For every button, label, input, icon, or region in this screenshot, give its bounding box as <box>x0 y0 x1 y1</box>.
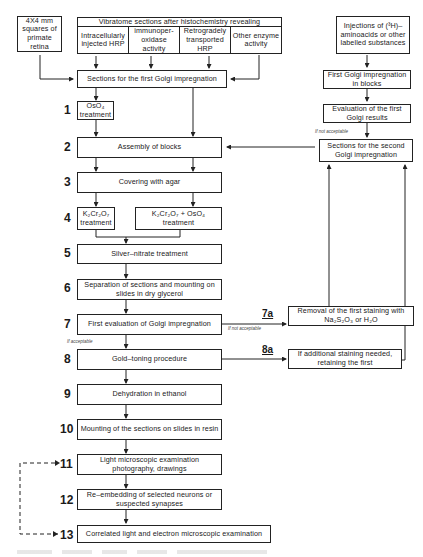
acceptable-note: If acceptable <box>67 339 93 344</box>
second-golgi-sections-box: Sections for the second Golgi impregnati… <box>319 139 413 162</box>
evaluation-first-golgi-box: Evaluation of the first Golgi results <box>323 104 411 123</box>
step-7a-text: Removal of the first staining with Na₂S₂… <box>289 307 413 324</box>
first-golgi-blocks-text: First Golgi impregnation in blocks <box>324 71 410 88</box>
step-4a-text: K₂Cr₂O₇ treatment <box>78 210 114 227</box>
step-number-11: 11 <box>60 458 73 470</box>
step-5-text: Silver–nitrate treatment <box>111 250 188 259</box>
step-number-7: 7 <box>64 318 71 330</box>
vibratome-cell-other-enzyme: Other enzyme activity <box>231 27 281 53</box>
retina-squares-text: 4X4 mm squares of primate retina <box>18 17 61 51</box>
step-2-assembly-box: Assembly of blocks <box>77 137 222 158</box>
step-8a-additional-staining-box: If additional staining needed, retaining… <box>288 349 402 369</box>
retina-squares-box: 4X4 mm squares of primate retina <box>17 16 62 52</box>
step-number-5: 5 <box>64 247 71 259</box>
step-13-text: Correlated light and electron microscopi… <box>86 530 262 539</box>
step-11-light-microscopy-box: Light microscopic examination photograph… <box>77 454 222 475</box>
step-1-text: OsO₄ treatment <box>78 102 113 119</box>
step-4b-dichromate-osmium-box: K₂Cr₂O₇ + OsO₄ treatment <box>135 207 222 230</box>
step-1-osmium-box: OsO₄ treatment <box>77 101 114 120</box>
step-3-agar-box: Covering with agar <box>77 172 222 193</box>
step-6-separation-box: Separation of sections and mounting on s… <box>77 279 222 300</box>
step-10-mounting-resin-box: Mounting of the sections on slides in re… <box>77 419 222 440</box>
step-6-text: Separation of sections and mounting on s… <box>78 281 221 298</box>
step-number-9: 9 <box>64 388 71 400</box>
step-number-2: 2 <box>64 141 71 153</box>
step-7-text: First evaluation of Golgi impregnation <box>88 320 211 329</box>
step-number-8: 8 <box>64 353 71 365</box>
first-golgi-sections-box: Sections for the first Golgi impregnatio… <box>77 70 227 88</box>
step-12-re-embedding-box: Re–embedding of selected neurons or susp… <box>77 489 222 510</box>
step-9-dehydration-box: Dehydration in ethanol <box>77 384 222 405</box>
step-7a-removal-box: Removal of the first staining with Na₂S₂… <box>288 306 414 326</box>
step-label-7a: 7a <box>262 308 273 319</box>
vibratome-cell-hrp-injected: Intracellularly injected HRP <box>78 27 129 53</box>
vibratome-cell-retrograde-hrp: Retrogradely transported HRP <box>180 27 231 53</box>
vibratome-cell-immunoperoxidase: immunoper-oxidase activity <box>129 27 180 53</box>
step-11-text: Light microscopic examination photograph… <box>78 456 221 473</box>
step-8-text: Gold–toning procedure <box>112 355 187 364</box>
step-8-gold-toning-box: Gold–toning procedure <box>77 349 222 370</box>
step-7-first-evaluation-box: First evaluation of Golgi impregnation <box>77 314 222 335</box>
step-number-3: 3 <box>64 176 71 188</box>
step-2-text: Assembly of blocks <box>118 143 181 152</box>
vibratome-sections-box: Vibratome sections after histochemistry … <box>77 17 282 54</box>
step-9-text: Dehydration in ethanol <box>112 390 186 399</box>
first-golgi-blocks-box: First Golgi impregnation in blocks <box>323 70 411 89</box>
step-4a-dichromate-box: K₂Cr₂O₇ treatment <box>77 207 115 230</box>
step-number-10: 10 <box>60 423 73 435</box>
first-golgi-sections-text: Sections for the first Golgi impregnatio… <box>87 75 217 84</box>
second-golgi-sections-text: Sections for the second Golgi impregnati… <box>320 142 412 159</box>
step-number-13: 13 <box>60 529 73 541</box>
not-acceptable-note-top: If not acceptable <box>315 129 348 134</box>
step-number-6: 6 <box>64 282 71 294</box>
evaluation-first-golgi-text: Evaluation of the first Golgi results <box>324 105 410 122</box>
injections-text: Injections of (³H)–aminoacids or other l… <box>337 22 409 48</box>
step-number-1: 1 <box>64 104 71 116</box>
not-acceptable-note-7: If not acceptable <box>228 326 261 331</box>
vibratome-header: Vibratome sections after histochemistry … <box>78 18 281 28</box>
step-label-8a: 8a <box>262 344 273 355</box>
cropped-caption-line <box>17 550 267 554</box>
step-5-silver-nitrate-box: Silver–nitrate treatment <box>77 244 222 264</box>
step-8a-text: If additional staining needed, retaining… <box>289 350 401 367</box>
step-13-correlated-microscopy-box: Correlated light and electron microscopi… <box>77 525 271 543</box>
step-4b-text: K₂Cr₂O₇ + OsO₄ treatment <box>136 210 221 227</box>
step-10-text: Mounting of the sections on slides in re… <box>81 425 219 434</box>
step-number-12: 12 <box>60 494 73 506</box>
step-number-4: 4 <box>64 212 71 224</box>
step-12-text: Re–embedding of selected neurons or susp… <box>78 491 221 508</box>
injections-box: Injections of (³H)–aminoacids or other l… <box>336 16 410 54</box>
step-3-text: Covering with agar <box>119 178 181 187</box>
